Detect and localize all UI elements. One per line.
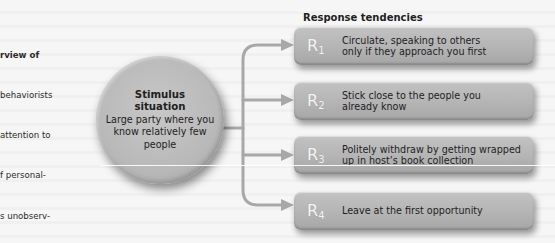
stimulus-title: Stimulus situation <box>115 89 205 114</box>
response-text: Leave at the first opportunity <box>342 205 483 217</box>
response-text: Stick close to the people you already kn… <box>342 90 481 113</box>
response-label-subscript: 2 <box>318 100 324 111</box>
response-label: R3 <box>294 145 342 165</box>
page-fold-line <box>100 165 555 166</box>
response-box-r3: R3 Politely withdraw by getting wrapped … <box>294 136 534 174</box>
response-tendencies-title: Response tendencies <box>303 12 423 23</box>
response-label-subscript: 1 <box>318 45 324 56</box>
response-label: R1 <box>294 36 342 56</box>
stimulus-description: Large party where you know relatively fe… <box>100 114 220 152</box>
response-label-letter: R <box>307 145 318 164</box>
response-text: Politely withdraw by getting wrapped up … <box>342 144 521 167</box>
response-label: R4 <box>294 201 342 221</box>
response-label-subscript: 4 <box>318 210 324 221</box>
response-label-letter: R <box>307 91 318 110</box>
response-text: Circulate, speaking to others only if th… <box>342 35 486 58</box>
response-box-r4: R4 Leave at the first opportunity <box>294 192 534 230</box>
response-box-r1: R1 Circulate, speaking to others only if… <box>294 27 534 65</box>
response-label-letter: R <box>307 36 318 55</box>
response-label-subscript: 3 <box>318 154 324 165</box>
response-label-letter: R <box>307 201 318 220</box>
response-label: R2 <box>294 91 342 111</box>
response-box-r2: R2 Stick close to the people you already… <box>294 82 534 120</box>
